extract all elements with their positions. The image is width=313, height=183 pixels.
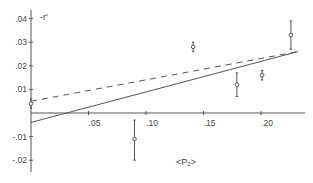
data-point [235, 73, 239, 97]
y-tick-label: .03 [15, 37, 27, 47]
y-tick-label: .04 [15, 14, 27, 24]
y-tick-label: -.02 [12, 155, 27, 165]
x-axis-label: <P₂> [176, 157, 196, 167]
x-tick-label: .20 [261, 118, 273, 128]
dashed-fit-line [31, 52, 298, 102]
point-marker [260, 73, 264, 77]
data-point [191, 42, 195, 51]
y-tick-label: .02 [15, 61, 27, 71]
scatter-chart: .04.03.02.01-.01-.02.05.10.15.20 -r' <P₂… [0, 0, 313, 183]
y-tick-label: -.01 [12, 132, 27, 142]
x-tick-label: .10 [146, 118, 158, 128]
y-tick-label: .01 [15, 84, 27, 94]
y-axis-label: -r' [40, 12, 48, 22]
data-points [29, 21, 293, 160]
point-marker [191, 45, 195, 49]
solid-fit-line [31, 52, 298, 123]
axes: .04.03.02.01-.01-.02.05.10.15.20 [12, 10, 305, 172]
data-point [260, 71, 264, 80]
point-marker [29, 102, 33, 106]
data-point [29, 99, 33, 108]
x-tick-label: .05 [89, 118, 101, 128]
fit-lines [31, 52, 298, 123]
point-marker [289, 33, 293, 37]
data-point [133, 120, 137, 160]
x-tick-label: .15 [204, 118, 216, 128]
point-marker [133, 137, 137, 141]
point-marker [235, 83, 239, 87]
data-point [289, 21, 293, 49]
